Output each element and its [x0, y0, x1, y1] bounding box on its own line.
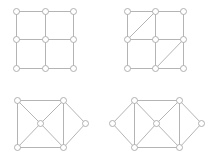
graph-edge [113, 124, 135, 148]
graph-node [43, 66, 49, 72]
graph-node [15, 98, 21, 104]
graph-node [14, 37, 20, 43]
graph-node [177, 98, 183, 104]
graph-node [125, 37, 131, 43]
graph-node [153, 9, 159, 15]
graph-edge [41, 101, 64, 124]
graph-edge [128, 12, 156, 40]
graph-edge [157, 124, 180, 148]
graph-node [177, 145, 183, 151]
graph-node [38, 121, 44, 127]
grid-graph [14, 9, 77, 72]
graph-edge [135, 101, 157, 124]
graph-node [181, 9, 187, 15]
graph-node [14, 66, 20, 72]
graph-node [61, 98, 67, 104]
graph-node [181, 37, 187, 43]
graph-node [199, 121, 205, 127]
graph-node [125, 66, 131, 72]
graph-node [71, 37, 77, 43]
graph-edge [113, 101, 135, 124]
graph-node [71, 66, 77, 72]
graph-node [132, 98, 138, 104]
graph-node [61, 145, 67, 151]
graph-edge [64, 124, 86, 148]
graph-node [153, 37, 159, 43]
graph-edge [135, 124, 157, 148]
graph-node [71, 9, 77, 15]
graph-node [132, 145, 138, 151]
graph-node [14, 9, 20, 15]
graph-edge [180, 124, 202, 148]
graph-node [43, 37, 49, 43]
graph-edge [156, 40, 184, 69]
graph-edge [41, 124, 64, 148]
graph-node [83, 121, 89, 127]
graph-edge [64, 101, 86, 124]
graph-edge [18, 124, 41, 148]
graph-node [15, 145, 21, 151]
bowtie-wheel-graph [15, 98, 89, 151]
graph-node [153, 66, 159, 72]
graph-edge [180, 101, 202, 124]
graph-node [110, 121, 116, 127]
double-diamond-graph [110, 98, 205, 151]
graph-node [125, 9, 131, 15]
triangulated-grid-graph [125, 9, 187, 72]
graph-node [181, 66, 187, 72]
graph-node [43, 9, 49, 15]
graph-edge [18, 101, 41, 124]
graph-diagrams [0, 0, 216, 158]
graph-edge [157, 101, 180, 124]
graph-node [154, 121, 160, 127]
